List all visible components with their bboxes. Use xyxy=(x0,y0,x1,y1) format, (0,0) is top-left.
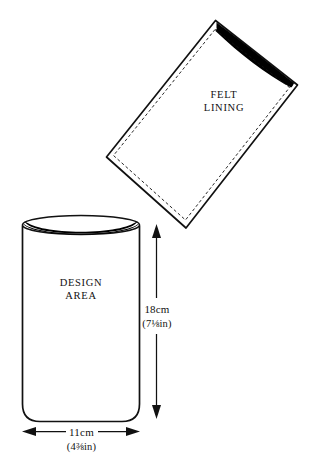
width-arrow-left-icon xyxy=(22,427,36,436)
height-dimension-metric: 18cm xyxy=(144,303,169,315)
height-arrow-down-icon xyxy=(152,405,161,419)
design-area-piece: DESIGN AREA xyxy=(23,216,140,422)
diagram-root: FELT LINING DESIGN AREA 18cm (7⅛in) xyxy=(0,0,310,465)
felt-lining-piece: FELT LINING xyxy=(107,21,298,229)
felt-lining-label-line1: FELT xyxy=(211,89,238,100)
height-arrow-up-icon xyxy=(152,224,161,238)
height-dimension: 18cm (7⅛in) xyxy=(142,224,172,419)
design-area-outline xyxy=(23,226,140,422)
pouch-dimension-diagram: FELT LINING DESIGN AREA 18cm (7⅛in) xyxy=(0,0,310,465)
design-area-rim xyxy=(23,216,140,235)
width-dimension-imperial: (4⅜in) xyxy=(67,441,97,453)
design-area-label-line1: DESIGN xyxy=(60,277,103,288)
design-area-label-line2: AREA xyxy=(65,290,96,301)
height-dimension-imperial: (7⅛in) xyxy=(142,318,172,330)
felt-lining-label-line2: LINING xyxy=(204,102,244,113)
width-dimension: 11cm (4⅜in) xyxy=(22,426,140,454)
width-dimension-metric: 11cm xyxy=(69,426,94,438)
felt-lining-outline xyxy=(107,21,298,229)
width-arrow-right-icon xyxy=(126,427,140,436)
